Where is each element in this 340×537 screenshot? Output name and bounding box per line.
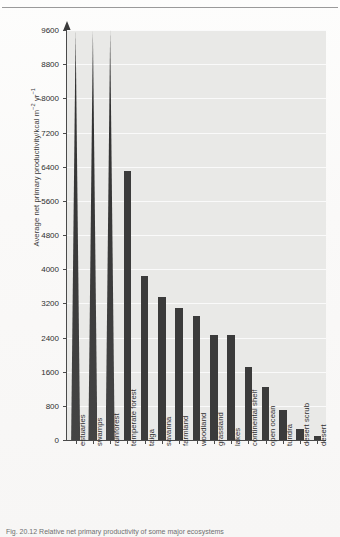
y-axis-tick-mark [63,64,67,65]
x-axis-label-rainforest: rainforest [112,413,121,446]
y-axis-tick-label: 800 [46,401,59,410]
x-axis-tick-mark [162,440,163,444]
x-axis-tick-mark [231,440,232,444]
x-axis-tick-mark [214,440,215,444]
x-axis-label-grassland: grassland [216,412,225,446]
y-axis-tick-label: 4000 [41,265,59,274]
y-axis-tick-mark [63,303,67,304]
x-axis-tick-mark [110,440,111,444]
x-axis-tick-mark [266,440,267,444]
x-axis-label-open-ocean: open ocean [268,405,277,446]
y-axis-title-main: Average net primary productivity/kcal m [32,110,41,247]
gridline [67,269,326,270]
y-axis-tick-mark [63,440,67,441]
x-axis-label-tundra: tundra [285,424,294,446]
gridline [67,167,326,168]
x-axis-label-desert: desert [319,424,328,446]
y-axis-tick-label: 8800 [41,60,59,69]
y-axis-title-exponent-area: −2 [30,103,36,110]
page-top-rule [2,7,338,8]
x-axis-label-swamps: swamps [95,418,104,446]
y-axis-tick-mark [63,372,67,373]
y-axis-tick-label: 2400 [41,333,59,342]
bar-lakes [227,335,235,440]
y-axis-tick-label: 0 [55,436,59,445]
gridline [67,98,326,99]
figure-container: Average net primary productivity/kcal m−… [0,12,340,522]
y-axis-tick-mark [63,167,67,168]
y-axis-tick-label: 1600 [41,367,59,376]
y-axis-title-exponent-year: −1 [30,88,36,95]
gridline [67,30,326,31]
x-axis-tick-mark [300,440,301,444]
x-axis-label-temperate-forest: temperate forest [129,389,138,446]
figure-caption: Fig. 20.12 Relative net primary producti… [6,528,336,536]
gridline [67,235,326,236]
y-axis-tick-label: 5600 [41,196,59,205]
y-axis-tick-mark [63,201,67,202]
x-axis-label-taiga: taiga [147,429,156,446]
x-axis-label-savanna: savanna [164,417,173,446]
x-axis-label-lakes: lakes [233,428,242,446]
x-axis-label-farmland: farmland [181,416,190,446]
y-axis-tick-mark [63,133,67,134]
y-axis-tick-label: 3200 [41,299,59,308]
y-axis-title: Average net primary productivity/kcal m−… [30,60,41,275]
y-axis-tick-label: 4800 [41,231,59,240]
y-axis-tick-mark [63,269,67,270]
gridline [67,201,326,202]
gridline [67,64,326,65]
y-axis-tick-label: 6400 [41,162,59,171]
bar-taiga [141,276,149,440]
x-axis-tick-mark [93,440,94,444]
y-axis-tick-mark [63,30,67,31]
y-axis-tick-label: 7200 [41,128,59,137]
x-axis-label-woodland: woodland [199,413,208,446]
y-axis-tick-mark [63,98,67,99]
y-axis-title-mid: yr [32,95,41,104]
y-axis-tick-mark [63,338,67,339]
x-axis-tick-mark [145,440,146,444]
y-axis-tick-label: 8000 [41,94,59,103]
y-axis-tick-mark [63,406,67,407]
plot-area: 0800160024003200400048005600640072008000… [66,30,326,441]
gridline [67,133,326,134]
x-axis-tick-mark [76,440,77,444]
x-axis-tick-mark [283,440,284,444]
y-axis-tick-label: 9600 [41,26,59,35]
y-axis-tick-mark [63,235,67,236]
x-axis-label-continental-shelf: continental shelf [250,389,259,446]
x-axis-tick-mark [197,440,198,444]
x-axis-label-desert-scrub: desert scrub [302,403,311,446]
gridline [67,303,326,304]
x-axis-label-estuaries: estuaries [78,414,87,446]
